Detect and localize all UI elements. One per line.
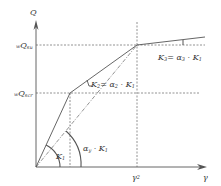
alpha-y-k1-label: αy · K1 xyxy=(83,144,108,154)
skeleton-curve-diagram: Q γ wQsu wQscr γ2 K1 αy · K1 K2= α2 · K1… xyxy=(0,0,221,186)
qsu-label: wQsu xyxy=(16,41,33,50)
x-axis-label: γ xyxy=(203,173,208,182)
guide-lines xyxy=(36,22,205,167)
k2-label: K2= α2 · K1 xyxy=(90,80,135,89)
k1-label: K1 xyxy=(55,152,65,161)
axes xyxy=(36,24,204,167)
y-axis-label: Q xyxy=(30,8,37,17)
k3-label: K3= α3 · K1 xyxy=(157,53,202,62)
gamma2-label: γ2 xyxy=(132,173,140,182)
alpha-y-angle-arc xyxy=(66,131,81,167)
diagram-canvas: Q γ wQsu wQscr γ2 K1 αy · K1 K2= α2 · K1… xyxy=(0,0,221,186)
qscr-label: wQscr xyxy=(14,89,33,98)
